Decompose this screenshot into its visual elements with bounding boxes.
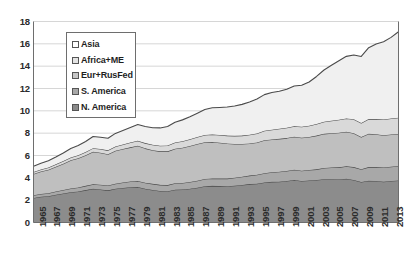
legend-item-label: Asia: [81, 40, 99, 49]
legend-item-n-america[interactable]: N. America: [72, 99, 135, 115]
legend-swatch-icon: [72, 72, 79, 79]
chart-legend: AsiaAfrica+MEEur+RusFedS. AmericaN. Amer…: [66, 32, 136, 118]
legend-item-label: Africa+ME: [81, 56, 124, 65]
legend-swatch-icon: [72, 104, 79, 111]
legend-item-asia[interactable]: Asia: [72, 37, 135, 53]
legend-item-africa-me[interactable]: Africa+ME: [72, 53, 135, 69]
legend-swatch-icon: [72, 41, 79, 48]
legend-swatch-icon: [72, 57, 79, 64]
legend-item-label: N. America: [81, 103, 126, 112]
plot-area: [0, 0, 416, 266]
legend-item-eur-rusfed[interactable]: Eur+RusFed: [72, 68, 135, 84]
legend-item-s-america[interactable]: S. America: [72, 84, 135, 100]
legend-swatch-icon: [72, 88, 79, 95]
legend-item-label: S. America: [81, 87, 126, 96]
stacked-area-chart: 181614121086420 196519671969197119731975…: [0, 0, 416, 266]
legend-item-label: Eur+RusFed: [81, 71, 133, 80]
